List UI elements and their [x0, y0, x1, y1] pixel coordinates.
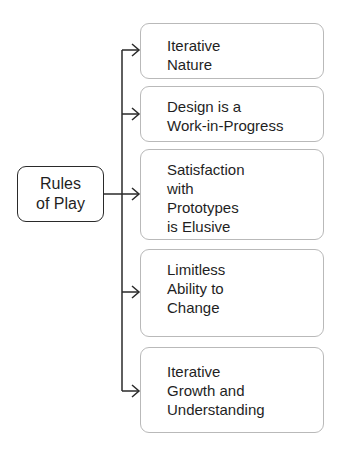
- child-node-limitless-ability: Limitless Ability to Change: [140, 249, 324, 337]
- child-node-satisfaction-elusive: Satisfaction with Prototypes is Elusive: [140, 149, 324, 240]
- child-node-label: Satisfaction with Prototypes is Elusive: [167, 160, 245, 236]
- child-node-label: Design is a Work-in-Progress: [167, 97, 283, 135]
- child-node-label: Iterative Growth and Understanding: [167, 362, 265, 419]
- root-node-label: Rules of Play: [36, 174, 85, 214]
- root-node-rules-of-play: Rules of Play: [17, 166, 104, 222]
- child-node-label: Iterative Nature: [167, 36, 220, 74]
- child-node-iterative-nature: Iterative Nature: [140, 23, 324, 79]
- child-node-iterative-growth: Iterative Growth and Understanding: [140, 347, 324, 433]
- child-node-label: Limitless Ability to Change: [167, 260, 225, 317]
- child-node-design-work-in-progress: Design is a Work-in-Progress: [140, 86, 324, 142]
